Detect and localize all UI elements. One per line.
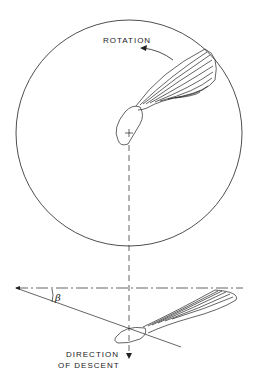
rotation-arrow-icon: [140, 45, 173, 60]
direction-label: DIRECTION: [66, 350, 119, 359]
samara-diagram: [0, 0, 254, 383]
descent-arrow-icon: [126, 353, 132, 359]
axis-center-icon: [125, 129, 133, 137]
rotation-label: ROTATION: [103, 36, 151, 45]
beta-angle-arc: [52, 289, 53, 302]
seed-side-view: [115, 290, 237, 343]
tilted-seed-axis-line: [16, 288, 181, 347]
seed-top-view: [116, 49, 216, 145]
beta-angle-label: β: [55, 292, 61, 303]
of-descent-label: OF DESCENT: [58, 361, 120, 370]
